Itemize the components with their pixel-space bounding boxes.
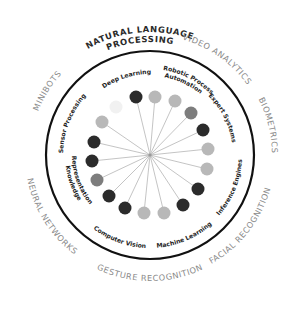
inner-label-computer-vision: Computer Vision xyxy=(93,224,147,249)
inner-label-expert-systems: Expert Systems xyxy=(207,92,238,144)
spoke-line xyxy=(150,130,203,155)
node-dot-light xyxy=(158,207,171,220)
spoke-line xyxy=(94,142,150,155)
node-dot-mid xyxy=(185,107,198,120)
spoke-line xyxy=(92,155,150,161)
node-dot-light xyxy=(201,163,214,176)
node-dot-dark xyxy=(88,136,101,149)
node-dot-light xyxy=(138,207,151,220)
spoke-line xyxy=(150,113,191,155)
spoke-line xyxy=(97,155,150,180)
spoke-line xyxy=(102,122,150,155)
node-dot-light xyxy=(149,91,162,104)
ai-technology-wheel: Deep LearningRobotic ProcessAutomationEx… xyxy=(0,0,301,310)
outer-label-facial-recognition: FACIAL RECOGNITION xyxy=(207,186,272,266)
spoke-line xyxy=(144,155,150,213)
node-dot-dark xyxy=(197,124,210,137)
node-dot-dark xyxy=(192,183,205,196)
spoke-line xyxy=(150,155,183,205)
inner-label-deep-learning: Deep Learning xyxy=(101,68,151,89)
spoke-line xyxy=(150,149,208,155)
spoke-line xyxy=(150,155,207,169)
node-dot-light xyxy=(96,116,109,129)
node-dot-mid xyxy=(91,174,104,187)
node-dot-dark xyxy=(119,202,132,215)
node-dot-faint xyxy=(110,101,123,114)
outer-label-biometrics: BIOMETRICS xyxy=(257,96,280,154)
node-dot-dark xyxy=(86,155,99,168)
spoke-line xyxy=(136,97,150,155)
spoke-line xyxy=(125,155,150,208)
node-dot-light xyxy=(202,143,215,156)
node-dot-dark xyxy=(103,190,116,203)
outer-label-gesture-recognition: GESTURE RECOGNITION xyxy=(96,262,205,283)
node-dot-dark xyxy=(130,91,143,104)
hub-center xyxy=(148,153,151,156)
spoke-line xyxy=(109,155,150,196)
node-dot-light xyxy=(169,95,182,108)
node-dot-dark xyxy=(177,199,190,212)
